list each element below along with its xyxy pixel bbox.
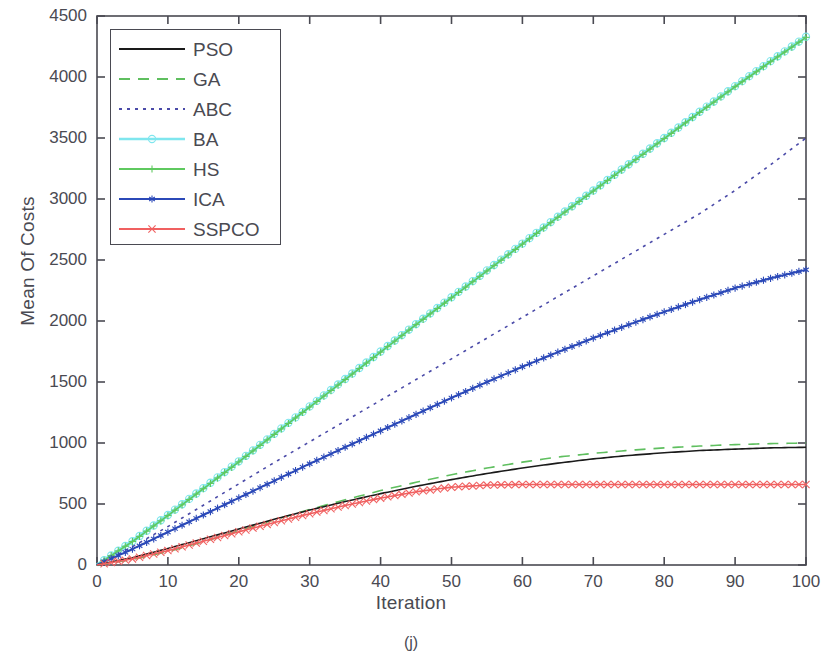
legend-swatch-hs-icon (115, 158, 189, 180)
y-tick-label: 2500 (0, 250, 87, 270)
series-ica (97, 266, 809, 565)
legend-item-pso[interactable]: PSO (111, 34, 280, 64)
legend-item-ga[interactable]: GA (111, 64, 280, 94)
legend-swatch-ba-icon (115, 128, 189, 150)
legend-swatch-pso-icon (115, 38, 189, 60)
y-tick-label: 1000 (0, 433, 87, 453)
series-sspco (97, 481, 810, 568)
series-ga (97, 443, 806, 565)
y-tick-label: 4500 (0, 6, 87, 26)
x-tick-label: 30 (300, 572, 319, 592)
legend-swatch-ica-icon (115, 188, 189, 210)
x-tick-label: 100 (792, 572, 820, 592)
x-tick-label: 80 (655, 572, 674, 592)
legend-item-ica[interactable]: ICA (111, 184, 280, 214)
legend-item-abc[interactable]: ABC (111, 94, 280, 124)
legend: PSOGAABCBAHSICASSPCO (110, 29, 281, 245)
x-axis-label: Iteration (0, 592, 822, 614)
y-tick-label: 0 (0, 555, 87, 575)
x-tick-label: 40 (371, 572, 390, 592)
x-tick-label: 50 (442, 572, 461, 592)
y-tick-label: 2000 (0, 311, 87, 331)
legend-label: BA (193, 130, 218, 149)
x-tick-label: 10 (158, 572, 177, 592)
x-tick-label: 60 (513, 572, 532, 592)
x-tick-label: 70 (584, 572, 603, 592)
legend-label: PSO (193, 40, 233, 59)
legend-item-sspco[interactable]: SSPCO (111, 214, 280, 244)
x-tick-label: 90 (726, 572, 745, 592)
y-tick-label: 3500 (0, 128, 87, 148)
legend-swatch-sspco-icon (115, 218, 189, 240)
y-tick-label: 500 (0, 494, 87, 514)
y-tick-label: 3000 (0, 189, 87, 209)
legend-swatch-abc-icon (115, 98, 189, 120)
figure-caption: (j) (0, 634, 822, 652)
legend-item-hs[interactable]: HS (111, 154, 280, 184)
legend-label: GA (193, 70, 220, 89)
legend-label: HS (193, 160, 219, 179)
x-tick-label: 20 (229, 572, 248, 592)
y-tick-label: 4000 (0, 67, 87, 87)
legend-item-ba[interactable]: BA (111, 124, 280, 154)
x-tick-label: 0 (92, 572, 101, 592)
legend-label: ICA (193, 190, 225, 209)
legend-swatch-ga-icon (115, 68, 189, 90)
figure-container: Mean Of Costs Iteration (j) 050010001500… (0, 0, 822, 662)
legend-label: ABC (193, 100, 232, 119)
y-tick-label: 1500 (0, 372, 87, 392)
legend-label: SSPCO (193, 220, 260, 239)
